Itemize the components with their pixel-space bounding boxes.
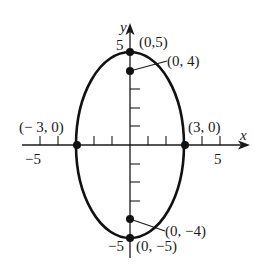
y-tick-label-neg5: −5 xyxy=(108,239,124,254)
y-tick-label-5: 5 xyxy=(116,38,124,53)
x-tick-label-neg5: −5 xyxy=(25,152,41,167)
point-focus-bottom xyxy=(126,215,134,223)
point-vertex-bottom xyxy=(126,234,134,242)
point-label-covertex-left: (− 3, 0) xyxy=(19,120,64,135)
point-covertex-right xyxy=(181,141,189,149)
point-focus-top xyxy=(126,67,134,75)
y-axis xyxy=(126,23,141,258)
ellipse-graph xyxy=(0,0,254,275)
point-label-vertex-top: (0,5) xyxy=(139,35,168,50)
y-axis-label: y xyxy=(120,20,127,35)
point-label-vertex-bottom: (0, −5) xyxy=(136,239,177,254)
x-tick-label-5: 5 xyxy=(214,152,222,167)
point-label-focus-top: (0, 4) xyxy=(167,54,200,69)
point-label-covertex-right: (3, 0) xyxy=(188,120,221,135)
point-vertex-top xyxy=(126,48,134,56)
point-covertex-left xyxy=(73,141,81,149)
x-axis-label: x xyxy=(240,128,247,143)
point-label-focus-bottom: (0, −4) xyxy=(165,224,206,239)
x-axis xyxy=(22,136,250,150)
